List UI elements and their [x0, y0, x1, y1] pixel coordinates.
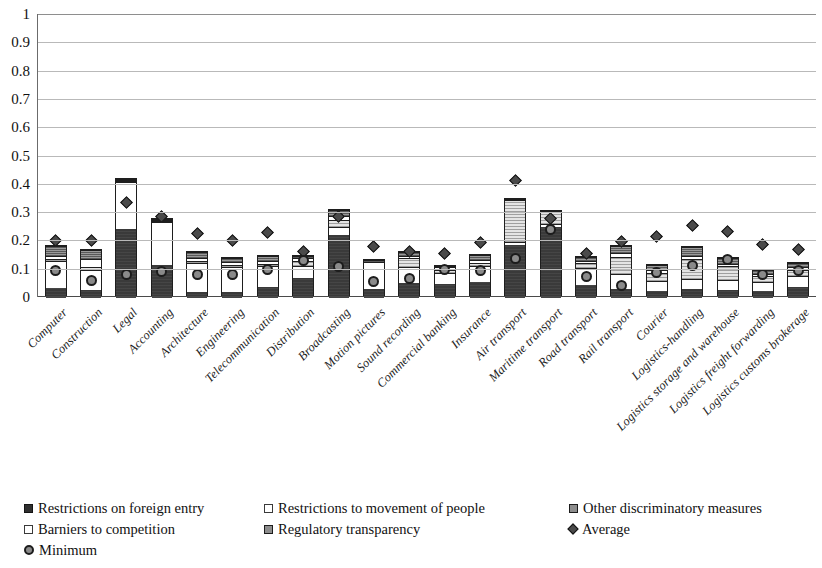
- bar-segment: [81, 250, 101, 259]
- stacked-bar[interactable]: [681, 246, 703, 298]
- bar-segment: [718, 280, 738, 290]
- stacked-bar[interactable]: [151, 218, 173, 297]
- gridline: [38, 269, 816, 270]
- bar-segment: [222, 292, 242, 298]
- legend-row: Barniers to competitionRegulatory transp…: [24, 521, 814, 542]
- chart-container: 10.90.80.70.60.50.40.30.20.10 ComputerCo…: [0, 0, 822, 568]
- legend-label: Restrictions on foreign entry: [38, 500, 204, 516]
- minimum-marker: [298, 255, 309, 266]
- x-tick-label: Legal: [111, 306, 141, 336]
- bar-segment: [647, 281, 667, 291]
- gridline: [38, 71, 816, 72]
- legend-item[interactable]: Average: [569, 521, 630, 537]
- gridline: [38, 240, 816, 241]
- gridline: [38, 127, 816, 128]
- legend-row: Restrictions on foreign entryRestriction…: [24, 500, 814, 521]
- bar-segment: [753, 282, 773, 290]
- bar-segment: [505, 200, 525, 242]
- y-tick-label: 0.8: [11, 63, 30, 78]
- bar-segment: [682, 279, 702, 290]
- legend-row: Minimum: [24, 542, 814, 563]
- bar-segment: [682, 247, 702, 257]
- legend-label: Average: [582, 521, 630, 537]
- bar-segment: [329, 227, 349, 235]
- legend-label: Barniers to competition: [38, 521, 175, 537]
- open-square-icon: [24, 525, 33, 534]
- minimum-marker: [404, 273, 415, 284]
- minimum-marker: [475, 265, 486, 276]
- legend-item[interactable]: Barniers to competition: [24, 521, 175, 537]
- bar-segment: [541, 227, 561, 298]
- legend-label: Restrictions to movement of people: [278, 500, 485, 516]
- minimum-marker: [616, 280, 627, 291]
- y-tick-label: 0.1: [11, 261, 30, 276]
- chart-legend: Restrictions on foreign entryRestriction…: [24, 500, 814, 566]
- gridline: [38, 156, 816, 157]
- minimum-marker: [50, 265, 61, 276]
- open-square-icon: [264, 504, 273, 513]
- legend-item[interactable]: Minimum: [24, 542, 97, 558]
- bar-segment: [293, 278, 313, 298]
- stacked-bar[interactable]: [80, 249, 102, 297]
- legend-item[interactable]: Restrictions on foreign entry: [24, 500, 204, 516]
- average-marker: [509, 174, 522, 187]
- circle-icon: [24, 545, 34, 555]
- gridline: [38, 42, 816, 43]
- average-marker: [438, 248, 451, 261]
- minimum-marker: [333, 261, 344, 272]
- y-tick-label: 0: [23, 290, 31, 305]
- x-axis-baseline: [38, 296, 816, 297]
- bar-segment: [152, 222, 172, 265]
- legend-label: Other discriminatory measures: [583, 500, 762, 516]
- stacked-bar[interactable]: [257, 255, 279, 297]
- y-tick-label: 1: [23, 7, 31, 22]
- y-tick-label: 0.7: [11, 91, 30, 106]
- average-marker: [721, 225, 734, 238]
- minimum-marker: [510, 253, 521, 264]
- x-axis-labels: ComputerConstructionLegalAccountingArchi…: [37, 300, 815, 485]
- legend-label: Minimum: [39, 542, 97, 558]
- shaded-square-icon: [569, 504, 578, 513]
- minimum-marker: [192, 269, 203, 280]
- y-tick-label: 0.2: [11, 233, 30, 248]
- legend-label: Regulatory transparency: [278, 521, 420, 537]
- bar-segment: [81, 259, 101, 267]
- average-marker: [474, 236, 487, 249]
- y-tick-label: 0.4: [11, 176, 30, 191]
- bar-segment: [647, 291, 667, 298]
- legend-item[interactable]: Restrictions to movement of people: [264, 500, 485, 516]
- average-marker: [368, 240, 381, 253]
- minimum-marker: [581, 271, 592, 282]
- y-tick-label: 0.5: [11, 148, 30, 163]
- average-marker: [686, 219, 699, 232]
- y-tick-label: 0.6: [11, 120, 30, 135]
- gridline: [38, 184, 816, 185]
- minimum-marker: [86, 275, 97, 286]
- bar-segment: [116, 229, 136, 298]
- legend-item[interactable]: Regulatory transparency: [264, 521, 420, 537]
- plot-area: [37, 14, 816, 297]
- gridline: [38, 99, 816, 100]
- bar-segment: [611, 257, 631, 275]
- plot-wrapper: 10.90.80.70.60.50.40.30.20.10 ComputerCo…: [0, 0, 822, 300]
- average-marker: [792, 243, 805, 256]
- filled-square-dark-icon: [24, 504, 33, 513]
- y-tick-label: 0.9: [11, 35, 30, 50]
- bar-segment: [46, 246, 66, 256]
- y-tick-label: 0.3: [11, 205, 30, 220]
- grey-square-icon: [264, 525, 273, 534]
- legend-item[interactable]: Other discriminatory measures: [569, 500, 762, 516]
- bar-segment: [399, 258, 419, 267]
- bar-segment: [187, 292, 207, 298]
- average-marker: [191, 227, 204, 240]
- gridline: [38, 14, 816, 15]
- y-axis: 10.90.80.70.60.50.40.30.20.10: [0, 0, 33, 300]
- gridline: [38, 212, 816, 213]
- bar-segment: [788, 276, 808, 286]
- average-marker: [261, 226, 274, 239]
- diamond-icon: [567, 523, 578, 534]
